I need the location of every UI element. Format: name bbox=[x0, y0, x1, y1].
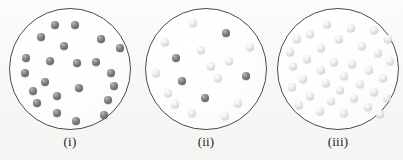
particle-sphere bbox=[222, 29, 230, 37]
particle-sphere bbox=[336, 86, 344, 94]
particle-sphere bbox=[29, 87, 37, 95]
circle-wrap bbox=[145, 8, 267, 130]
particle-sphere bbox=[384, 35, 392, 43]
circle-wrap bbox=[277, 8, 399, 130]
particle-sphere bbox=[289, 62, 297, 70]
particle-sphere bbox=[197, 46, 205, 54]
particle-sphere bbox=[75, 84, 83, 92]
panel-label: (ii) bbox=[145, 134, 267, 150]
particle-sphere bbox=[317, 66, 325, 74]
particle-sphere bbox=[246, 43, 254, 51]
particle-sphere bbox=[322, 79, 330, 87]
figure-root: (i)(ii)(iii) bbox=[0, 0, 403, 160]
particle-sphere bbox=[379, 74, 387, 82]
particle-sphere bbox=[306, 30, 314, 38]
particle-sphere bbox=[225, 57, 233, 65]
particle-sphere bbox=[110, 82, 118, 90]
particle-sphere bbox=[164, 89, 172, 97]
particle-sphere bbox=[348, 60, 356, 68]
panel-label: (i) bbox=[9, 134, 131, 150]
particle-sphere bbox=[365, 66, 373, 74]
container-iii: (iii) bbox=[277, 0, 399, 160]
particle-sphere bbox=[323, 20, 331, 28]
particle-sphere bbox=[178, 77, 186, 85]
particle-sphere bbox=[376, 110, 384, 118]
particle-sphere bbox=[171, 100, 178, 107]
particle-sphere bbox=[286, 48, 294, 56]
particle-sphere bbox=[46, 57, 54, 65]
particle-sphere bbox=[116, 44, 124, 52]
particle-sphere bbox=[330, 58, 338, 66]
particle-sphere bbox=[172, 54, 180, 62]
particle-sphere bbox=[71, 21, 79, 29]
particle-sphere bbox=[288, 83, 296, 91]
particle-sphere bbox=[317, 44, 325, 52]
particle-sphere bbox=[161, 38, 169, 46]
particle-sphere bbox=[100, 111, 108, 119]
container-circle bbox=[145, 8, 267, 130]
particle-sphere bbox=[374, 49, 382, 57]
particle-sphere bbox=[370, 88, 378, 96]
particle-sphere bbox=[234, 99, 242, 107]
particle-sphere bbox=[358, 42, 366, 50]
particle-sphere bbox=[242, 72, 250, 80]
particle-sphere bbox=[386, 57, 394, 65]
particle-sphere bbox=[33, 99, 41, 107]
particle-sphere bbox=[51, 21, 59, 29]
particle-sphere bbox=[299, 75, 307, 83]
particle-sphere bbox=[370, 26, 378, 34]
particle-sphere bbox=[107, 69, 115, 77]
container-ii: (ii) bbox=[145, 0, 267, 160]
particle-sphere bbox=[221, 112, 229, 120]
particle-sphere bbox=[92, 58, 100, 66]
particle-sphere bbox=[53, 109, 61, 117]
particle-sphere bbox=[201, 94, 209, 102]
particle-sphere bbox=[295, 101, 303, 109]
particle-sphere bbox=[21, 69, 29, 77]
particle-sphere bbox=[293, 35, 301, 43]
particle-sphere bbox=[53, 92, 61, 100]
particle-sphere bbox=[335, 35, 343, 43]
particle-sphere bbox=[104, 96, 112, 104]
particle-sphere bbox=[37, 33, 45, 41]
particle-sphere bbox=[73, 59, 81, 67]
particle-sphere bbox=[356, 80, 364, 88]
particle-sphere bbox=[60, 42, 68, 50]
particle-sphere bbox=[72, 117, 80, 125]
circle-wrap bbox=[9, 8, 131, 130]
particle-sphere bbox=[340, 109, 348, 117]
particle-sphere bbox=[340, 72, 348, 80]
particle-sphere bbox=[303, 55, 311, 63]
particle-sphere bbox=[188, 109, 196, 117]
particle-sphere bbox=[22, 54, 30, 62]
container-i: (i) bbox=[9, 0, 131, 160]
particle-sphere bbox=[41, 78, 49, 86]
particle-sphere bbox=[189, 19, 197, 27]
particle-sphere bbox=[306, 92, 314, 100]
panel-label: (iii) bbox=[277, 134, 399, 150]
particle-sphere bbox=[327, 97, 335, 105]
particle-sphere bbox=[316, 107, 324, 115]
particle-sphere bbox=[97, 35, 105, 43]
particle-sphere bbox=[347, 24, 355, 32]
particle-sphere bbox=[214, 74, 222, 82]
particle-sphere bbox=[364, 103, 372, 111]
particle-sphere bbox=[207, 62, 214, 69]
particle-sphere bbox=[152, 69, 160, 77]
particle-sphere bbox=[383, 94, 391, 102]
particle-sphere bbox=[350, 94, 358, 102]
